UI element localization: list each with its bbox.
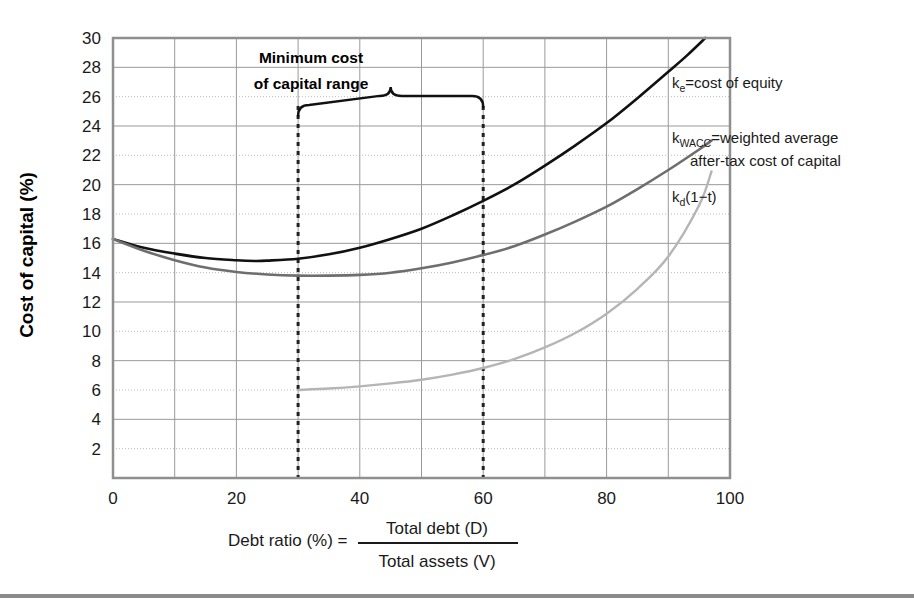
x-axis-title-denominator: Total assets (V)	[378, 552, 495, 571]
bottom-divider	[0, 594, 914, 598]
y-tick-label-26: 26	[82, 88, 101, 107]
x-tick-label-60: 60	[474, 489, 493, 508]
y-tick-label-28: 28	[82, 58, 101, 77]
series-label-ke-text: ke=cost of equity	[672, 74, 783, 94]
x-tick-label-100: 100	[716, 489, 744, 508]
y-tick-label-10: 10	[82, 322, 101, 341]
x-tick-label-0: 0	[108, 489, 117, 508]
series-label-kd: kd(1−t)	[672, 188, 717, 208]
cost-of-capital-chart-figure: 020406080100 24681012141618202224262830 …	[0, 0, 914, 609]
y-tick-label-6: 6	[92, 381, 101, 400]
annotation-line-1: Minimum cost	[259, 49, 363, 66]
annotation-minimum-cost-range: Minimum cost of capital range	[254, 49, 369, 92]
y-tick-label-8: 8	[92, 352, 101, 371]
x-tick-label-40: 40	[350, 489, 369, 508]
x-tick-label-20: 20	[227, 489, 246, 508]
series-label-kwacc-text: kWACC=weighted average	[672, 129, 838, 149]
y-tick-label-22: 22	[82, 146, 101, 165]
y-axis-title: Cost of capital (%)	[16, 172, 37, 338]
series-line-ke	[113, 38, 705, 261]
y-tick-label-30: 30	[82, 29, 101, 48]
y-tick-label-24: 24	[82, 117, 101, 136]
x-axis-title-group: Debt ratio (%) = Total debt (D) Total as…	[228, 519, 518, 571]
y-tick-label-12: 12	[82, 293, 101, 312]
annotation-line-2: of capital range	[254, 75, 369, 92]
series-label-kd-text: kd(1−t)	[672, 188, 717, 208]
x-axis-tick-labels: 020406080100	[108, 489, 744, 508]
y-tick-label-4: 4	[92, 410, 101, 429]
series-layer	[113, 38, 711, 390]
y-tick-label-14: 14	[82, 264, 101, 283]
y-tick-label-20: 20	[82, 176, 101, 195]
y-tick-label-16: 16	[82, 234, 101, 253]
x-axis-title-numerator: Total debt (D)	[386, 519, 488, 538]
x-axis-title-prefix: Debt ratio (%) =	[228, 531, 348, 550]
series-label-kwacc: kWACC=weighted average after-tax cost of…	[672, 129, 841, 169]
series-line-kwacc	[113, 141, 711, 276]
y-tick-label-18: 18	[82, 205, 101, 224]
x-tick-label-80: 80	[597, 489, 616, 508]
chart-canvas: 020406080100 24681012141618202224262830 …	[0, 0, 914, 609]
y-tick-label-2: 2	[92, 440, 101, 459]
reference-lines-layer	[298, 106, 483, 478]
y-axis-tick-labels: 24681012141618202224262830	[82, 29, 101, 459]
series-label-kwacc-line2: after-tax cost of capital	[690, 152, 841, 169]
series-label-ke: ke=cost of equity	[672, 74, 783, 94]
